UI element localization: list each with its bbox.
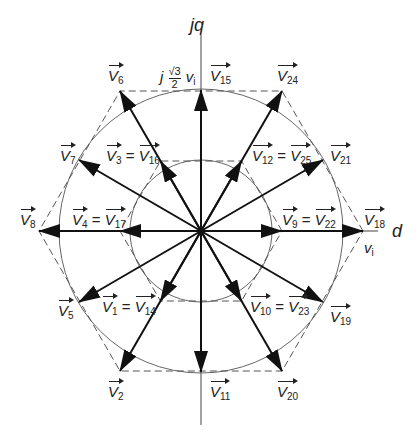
label-v24: V24 — [277, 68, 298, 86]
vector-v10 — [201, 231, 242, 301]
vector-v19 — [201, 231, 323, 302]
vector-v5 — [79, 231, 201, 302]
label-v18: V18 — [364, 212, 385, 230]
origin — [199, 229, 204, 234]
vector-v12 — [201, 161, 242, 231]
vector-v3 — [161, 161, 202, 231]
q-tick-num: √3 — [169, 66, 181, 79]
label-v12-v25: V12 = V25 — [252, 148, 311, 166]
label-v10-v23: V10 = V23 — [250, 299, 309, 317]
q-axis-label: jq — [190, 16, 204, 34]
label-v1-v14: V1 = V14 — [102, 299, 156, 317]
label-v3-v16: V3 = V16 — [106, 148, 160, 166]
label-v4-v17: V4 = V17 — [72, 212, 126, 230]
q-tick-j: j — [160, 68, 163, 85]
label-v11: V11 — [210, 384, 230, 402]
label-v5: V5 — [58, 303, 74, 321]
label-v2: V2 — [108, 384, 124, 402]
space-vector-diagram — [0, 0, 418, 432]
d-axis-label: d — [392, 222, 402, 240]
label-v6: V6 — [108, 68, 124, 86]
q-tick-label: j √3 2 vi — [160, 66, 196, 90]
d-tick-v: v — [364, 239, 372, 256]
label-v9-v22: V9 = V22 — [282, 212, 336, 230]
label-v19: V19 — [330, 309, 351, 327]
label-v21: V21 — [330, 148, 351, 166]
vector-v1 — [161, 231, 202, 301]
label-v20: V20 — [277, 384, 298, 402]
label-v7: V7 — [60, 148, 76, 166]
q-tick-sub: i — [193, 76, 195, 87]
d-tick-label: vi — [364, 240, 374, 258]
label-v8: V8 — [20, 212, 36, 230]
q-tick-den: 2 — [169, 79, 181, 91]
d-tick-sub: i — [372, 247, 374, 258]
label-v15: V15 — [210, 68, 231, 86]
